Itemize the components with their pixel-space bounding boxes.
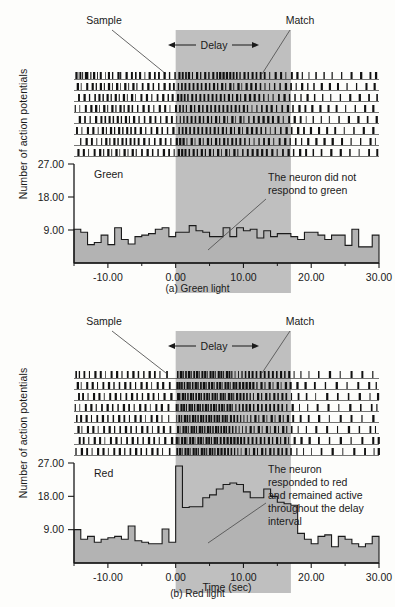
- raster-spike: [231, 448, 233, 455]
- condition-label-green: Green: [94, 168, 123, 180]
- y-tick-label: 18.00: [38, 490, 64, 502]
- annotation-line-4: throughout the delay: [268, 502, 364, 514]
- raster-spike: [340, 371, 341, 378]
- raster-spike: [162, 94, 164, 101]
- raster-spike: [209, 83, 210, 90]
- raster-spike: [249, 404, 251, 411]
- sample-marker-group: Sample: [86, 315, 166, 373]
- raster-spike: [77, 83, 79, 90]
- raster-spike: [105, 437, 106, 444]
- raster-spike: [258, 94, 260, 101]
- raster-spike: [227, 105, 229, 112]
- raster-spike: [276, 437, 278, 444]
- raster-spike: [293, 149, 294, 156]
- raster-spike: [281, 448, 283, 455]
- raster-spike: [97, 72, 98, 79]
- raster-spike: [261, 149, 263, 156]
- raster-spike: [264, 437, 265, 444]
- raster-spike: [309, 371, 310, 378]
- raster-spike: [248, 72, 250, 79]
- raster-spike: [212, 448, 214, 455]
- raster-spike: [371, 404, 373, 411]
- raster-spike: [205, 127, 207, 134]
- raster-spike: [135, 382, 136, 389]
- raster-spike: [269, 72, 270, 79]
- raster-spike: [125, 116, 127, 123]
- raster-spike: [310, 127, 312, 134]
- raster-spike: [266, 149, 268, 156]
- raster-spike: [301, 83, 303, 90]
- raster-spike: [97, 448, 99, 455]
- raster-spike: [132, 105, 134, 112]
- raster-spike: [264, 371, 266, 378]
- raster-spike: [260, 83, 262, 90]
- raster-spike: [212, 72, 214, 79]
- raster-spike: [103, 149, 104, 156]
- raster-spike: [136, 393, 138, 400]
- raster-spike: [105, 371, 106, 378]
- raster-spike: [115, 94, 117, 101]
- raster-spike: [98, 94, 100, 101]
- raster-spike: [210, 371, 212, 378]
- raster-spike: [233, 149, 235, 156]
- y-axis-label: Number of action potentials: [17, 353, 29, 513]
- sample-leader-line: [112, 331, 166, 373]
- raster-spike: [250, 426, 252, 433]
- raster-spike: [180, 371, 182, 378]
- raster-spike: [248, 371, 250, 378]
- raster-spike: [220, 426, 222, 433]
- raster-spike: [237, 448, 238, 455]
- raster-spike: [86, 382, 88, 389]
- raster-spike: [178, 83, 179, 90]
- raster-spike: [198, 105, 200, 112]
- raster-spike: [101, 138, 102, 145]
- raster-spike: [288, 116, 290, 123]
- raster-spike: [188, 72, 190, 79]
- raster-spike: [115, 393, 117, 400]
- raster-spike: [220, 393, 222, 400]
- raster-spike: [280, 72, 282, 79]
- raster-spike: [315, 138, 317, 145]
- raster-spike: [187, 116, 189, 123]
- raster-spike: [193, 149, 195, 156]
- raster-spike: [181, 437, 183, 444]
- raster-spike: [207, 371, 208, 378]
- raster-spike: [89, 371, 90, 378]
- raster-spike: [266, 415, 267, 422]
- raster-spike: [232, 404, 233, 411]
- raster-spike: [148, 437, 150, 444]
- raster-spike: [116, 83, 118, 90]
- raster-spike: [357, 116, 359, 123]
- raster-spike: [216, 382, 218, 389]
- raster-spike: [247, 149, 249, 156]
- raster-spike: [139, 72, 141, 79]
- raster-spike: [189, 404, 191, 411]
- raster-spike: [86, 83, 88, 90]
- raster-spike: [201, 127, 203, 134]
- raster-spike: [252, 72, 254, 79]
- raster-spike: [222, 127, 224, 134]
- raster-spike: [199, 404, 201, 411]
- raster-spike: [299, 404, 300, 411]
- raster-spike: [340, 149, 342, 156]
- raster-spike: [178, 72, 180, 79]
- raster-spike: [113, 382, 114, 389]
- raster-spike: [193, 371, 195, 378]
- raster-spike: [235, 426, 236, 433]
- raster-spike: [211, 138, 212, 145]
- raster-spike: [83, 149, 85, 156]
- raster-spike: [266, 105, 268, 112]
- raster-spike: [346, 83, 347, 90]
- condition-label-red: Red: [94, 467, 113, 479]
- raster-spike: [233, 72, 235, 79]
- raster-spike: [96, 415, 98, 422]
- raster-spike: [117, 72, 119, 79]
- raster-spike: [95, 116, 97, 123]
- raster-spike: [337, 393, 339, 400]
- raster-spike: [240, 94, 241, 101]
- raster-spike: [159, 437, 160, 444]
- raster-spike: [79, 72, 81, 79]
- raster-spike: [147, 426, 149, 433]
- raster-spike: [278, 426, 279, 433]
- raster-spike: [111, 371, 113, 378]
